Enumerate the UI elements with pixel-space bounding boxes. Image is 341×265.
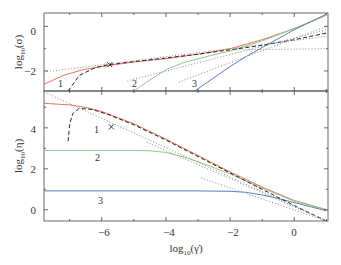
bottom-y-axis-label: log10(η) [12, 139, 27, 173]
xtick-0: 0 [291, 226, 297, 238]
top-series-3 [195, 14, 327, 91]
top-series-2 [134, 15, 327, 91]
top-curve-label-1: 1 [58, 78, 63, 89]
bottom-series [44, 92, 326, 221]
bottom-ytick-2: 2 [31, 163, 37, 175]
bottom-ytick-0: 0 [31, 204, 37, 216]
top-ytick-0: 0 [31, 25, 37, 37]
bottom-series-1 [44, 103, 326, 209]
bottom-curve-label-1: 1 [94, 124, 99, 135]
x-axis-label: log10(γ̇) [169, 242, 203, 257]
top-curve-label-3: 3 [192, 78, 197, 89]
top-curve-label-2: 2 [132, 78, 137, 89]
top-panel-frame [44, 13, 328, 91]
bottom-curve-label-3: 3 [98, 195, 103, 206]
top-series-1 [44, 15, 326, 84]
bottom-curve-label-2: 2 [95, 152, 100, 163]
top-y-axis-label: log10(σ) [12, 35, 27, 70]
top-asymptote [127, 30, 326, 81]
bottom-asymptote [44, 92, 326, 221]
bottom-asymptote [201, 178, 326, 221]
top-ytick-neg2: −2 [24, 65, 36, 77]
chart-container: 0 −2 4 2 0 −6 −4 −2 0 log10(γ̇) log10(σ)… [0, 0, 341, 265]
bottom-marker-x [109, 124, 114, 129]
xtick-neg6: −6 [98, 226, 110, 238]
xtick-neg2: −2 [227, 226, 239, 238]
xtick-neg4: −4 [163, 226, 175, 238]
axis-ticks [44, 13, 328, 221]
top-series-limit [68, 33, 326, 91]
top-series [44, 14, 326, 91]
bottom-ytick-4: 4 [31, 123, 37, 135]
